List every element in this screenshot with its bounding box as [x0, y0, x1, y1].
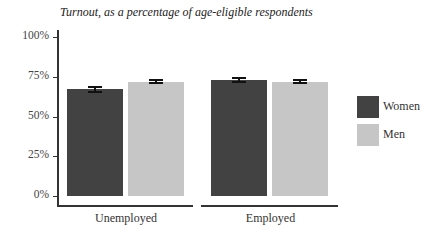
- y-tick-label: 100%: [5, 29, 49, 41]
- y-tick-label: 50%: [5, 109, 49, 121]
- bar-employed-women: [211, 80, 267, 196]
- y-tick-label: 0%: [5, 188, 49, 200]
- x-axis-employed: [201, 205, 338, 207]
- y-tick: [53, 196, 57, 197]
- y-tick: [53, 156, 57, 157]
- bar-employed-men: [272, 82, 328, 196]
- x-label-unemployed: Unemployed: [67, 211, 185, 226]
- y-tick: [53, 37, 57, 38]
- error-bar: [293, 79, 307, 84]
- x-label-employed: Employed: [211, 211, 330, 226]
- chart-title: Turnout, as a percentage of age-eligible…: [60, 5, 313, 20]
- error-bar: [149, 79, 163, 85]
- legend-label-men: Men: [383, 127, 405, 142]
- legend-swatch-men: [357, 124, 379, 146]
- x-axis-unemployed: [57, 205, 193, 207]
- legend-swatch-women: [357, 96, 379, 118]
- legend-label-women: Women: [383, 99, 420, 114]
- bar-unemployed-women: [67, 89, 123, 196]
- bar-unemployed-men: [128, 82, 184, 196]
- error-bar: [88, 86, 102, 93]
- error-bar: [232, 77, 246, 82]
- y-axis: [57, 30, 59, 206]
- y-tick-label: 25%: [5, 148, 49, 160]
- y-tick: [53, 77, 57, 78]
- y-tick: [53, 117, 57, 118]
- y-tick-label: 75%: [5, 69, 49, 81]
